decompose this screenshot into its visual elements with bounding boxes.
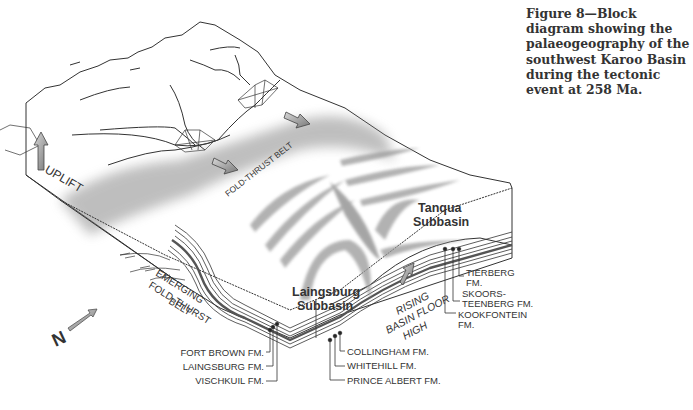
block-diagram-figure: N UPLIFT FOLD-THRUST BELT EMERGING FOLD-… [0,0,693,410]
formation-label: VISCHKUIL FM. [195,375,264,386]
tanqua-subbasin-label: Tanqua [418,201,463,215]
formation-label: FM. [466,277,482,288]
laingsburg-subbasin-label-2: Subbasin [297,299,353,313]
tanqua-subbasin-label-2: Subbasin [413,215,469,229]
svg-text:N: N [49,327,69,351]
laingsburg-subbasin-label: Laingsburg [292,285,360,299]
north-arrow-icon [68,309,97,331]
formation-label: PRINCE ALBERT FM. [347,375,441,386]
formation-label: LAINGSBURG FM. [183,361,264,372]
formation-label: COLLINGHAM FM. [347,346,429,357]
figure-caption: Figure 8—Block diagram showing the palae… [526,6,691,97]
north-arrow: N [49,309,97,351]
formation-label: FM. [458,319,474,330]
formation-label: TEENBERG FM. [462,298,533,309]
formation-label: FORT BROWN FM. [180,347,264,358]
formation-label: WHITEHILL FM. [347,360,416,371]
